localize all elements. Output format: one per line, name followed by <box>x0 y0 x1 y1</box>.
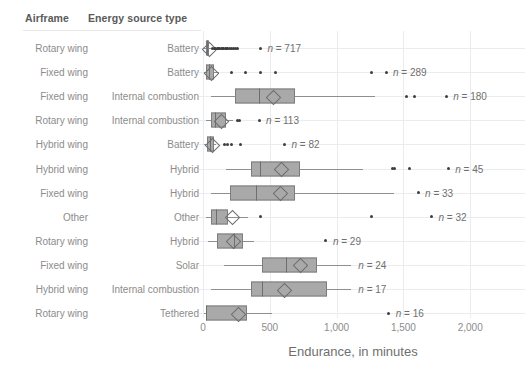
sample-size-label: n = 82 <box>292 139 320 150</box>
outlier-point <box>259 71 262 74</box>
outlier-point <box>226 143 229 146</box>
box-plot <box>0 63 531 81</box>
box-plot <box>0 280 531 298</box>
box-plot <box>0 304 531 322</box>
median-line <box>259 89 260 104</box>
x-tick-label-2000: 2,000 <box>458 322 483 333</box>
sample-size-label: n = 17 <box>358 284 386 295</box>
median-line <box>286 257 287 272</box>
x-tick-label-1000: 1,000 <box>324 322 349 333</box>
column-header-airframe: Airframe <box>25 12 69 24</box>
outlier-point <box>408 167 411 170</box>
outlier-point <box>430 215 433 218</box>
boxplot-figure: Airframe Energy source type Rotary wingB… <box>0 0 531 374</box>
median-line <box>262 282 263 297</box>
median-line <box>260 161 261 176</box>
sample-size-label: n = 180 <box>453 91 487 102</box>
sample-size-label: n = 289 <box>393 67 427 78</box>
sample-size-label: n = 113 <box>266 115 299 126</box>
outlier-point <box>283 143 286 146</box>
outlier-point <box>239 143 242 146</box>
header-divider <box>23 30 201 31</box>
box-plot <box>0 256 531 274</box>
outlier-point <box>274 71 277 74</box>
outlier-point <box>238 119 241 122</box>
outlier-point <box>258 119 261 122</box>
outlier-point <box>413 95 416 98</box>
x-tick-label-1500: 1,500 <box>391 322 416 333</box>
box-plot <box>0 160 531 178</box>
outlier-point <box>259 215 262 218</box>
sample-size-label: n = 717 <box>267 43 301 54</box>
box-plot <box>0 232 531 250</box>
sample-size-label: n = 16 <box>396 308 424 319</box>
outlier-point <box>445 95 448 98</box>
sample-size-label: n = 33 <box>425 187 453 198</box>
outlier-point <box>259 47 262 50</box>
outlier-point <box>393 167 396 170</box>
sample-size-label: n = 29 <box>333 235 361 246</box>
box-plot <box>0 135 531 153</box>
median-line <box>216 209 217 224</box>
outlier-point <box>324 239 327 242</box>
x-tick-label-0: 0 <box>200 322 206 333</box>
x-tick-label-500: 500 <box>261 322 278 333</box>
outlier-point <box>447 167 450 170</box>
outlier-point <box>417 191 420 194</box>
column-header-energy-source-type: Energy source type <box>88 12 187 24</box>
box-plot <box>0 39 531 57</box>
sample-size-label: n = 45 <box>455 163 483 174</box>
outlier-point <box>230 71 233 74</box>
outlier-point <box>385 71 388 74</box>
outlier-point <box>230 143 233 146</box>
box-plot <box>0 87 531 105</box>
outlier-point <box>236 47 239 50</box>
outlier-point <box>370 215 373 218</box>
median-line <box>256 185 257 200</box>
outlier-point <box>387 312 390 315</box>
x-axis-title: Endurance, in minutes <box>203 344 503 359</box>
sample-size-label: n = 32 <box>439 211 467 222</box>
outlier-point <box>370 71 373 74</box>
outlier-point <box>244 71 247 74</box>
median-line <box>206 306 207 321</box>
sample-size-label: n = 24 <box>358 259 386 270</box>
outlier-point <box>405 95 408 98</box>
